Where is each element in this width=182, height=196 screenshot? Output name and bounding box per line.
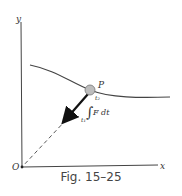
particle-p	[85, 85, 95, 95]
dashed-position-line	[22, 120, 66, 167]
figure-canvas: y x O P t₂ ∫ t₁ F dt Fig. 15–25	[0, 0, 182, 196]
integral-body: F dt	[92, 108, 110, 117]
integral-upper-limit: t₂	[95, 94, 100, 101]
point-label: P	[97, 80, 105, 90]
y-axis	[21, 22, 22, 167]
integral-lower-limit: t₁	[81, 116, 86, 123]
diagram: y x O P t₂ ∫ t₁ F dt	[0, 0, 182, 196]
figure-caption: Fig. 15–25	[0, 170, 182, 184]
y-axis-label: y	[15, 14, 22, 24]
origin-dot	[21, 166, 24, 169]
impulse-arrow	[67, 94, 88, 118]
x-axis	[22, 165, 158, 167]
